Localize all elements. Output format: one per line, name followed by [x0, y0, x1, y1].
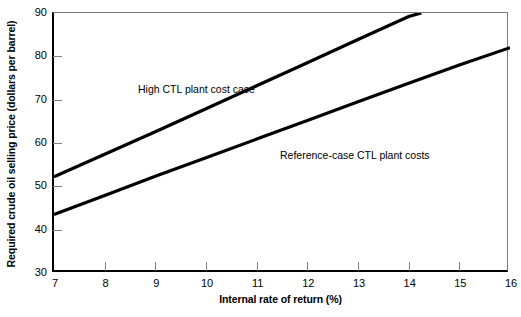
y-tick-60: 60	[53, 143, 62, 144]
y-tick-label: 60	[35, 136, 47, 148]
x-tick-7: 7	[54, 262, 55, 271]
x-tick-label: 11	[248, 277, 268, 289]
x-axis-title: Internal rate of return (%)	[52, 293, 509, 305]
y-tick-label: 70	[35, 93, 47, 105]
plot-area: 30405060708090 78910111213141516 High CT…	[52, 12, 508, 272]
y-tick-70: 70	[53, 100, 62, 101]
x-tick-12: 12	[307, 262, 308, 271]
x-tick-16: 16	[510, 262, 511, 271]
x-tick-label: 10	[197, 277, 217, 289]
chart-figure: Required crude oil selling price (dollar…	[0, 0, 521, 317]
y-tick-40: 40	[53, 230, 62, 231]
x-tick-label: 9	[146, 277, 166, 289]
y-tick-label: 40	[35, 223, 47, 235]
x-tick-label: 12	[298, 277, 318, 289]
y-tick-50: 50	[53, 186, 62, 187]
y-tick-label: 90	[35, 6, 47, 18]
x-tick-11: 11	[257, 262, 258, 271]
x-tick-13: 13	[358, 262, 359, 271]
x-tick-8: 8	[105, 262, 106, 271]
annotation-high-ctl-plant-cost-case: High CTL plant cost case	[138, 83, 255, 95]
x-tick-9: 9	[155, 262, 156, 271]
annotation-reference-case-ctl-plant-costs: Reference-case CTL plant costs	[280, 149, 430, 161]
y-tick-90: 90	[53, 13, 62, 14]
x-tick-label: 13	[349, 277, 369, 289]
x-tick-label: 14	[400, 277, 420, 289]
y-tick-80: 80	[53, 56, 62, 57]
x-tick-10: 10	[206, 262, 207, 271]
x-tick-label: 8	[96, 277, 116, 289]
x-tick-label: 16	[501, 277, 521, 289]
x-tick-label: 7	[45, 277, 65, 289]
y-tick-label: 80	[35, 49, 47, 61]
series-lines	[54, 13, 510, 273]
y-tick-30: 30	[53, 273, 62, 274]
x-tick-label: 15	[450, 277, 470, 289]
y-tick-label: 50	[35, 179, 47, 191]
x-tick-15: 15	[459, 262, 460, 271]
x-tick-14: 14	[409, 262, 410, 271]
y-axis-title: Required crude oil selling price (dollar…	[2, 4, 20, 284]
